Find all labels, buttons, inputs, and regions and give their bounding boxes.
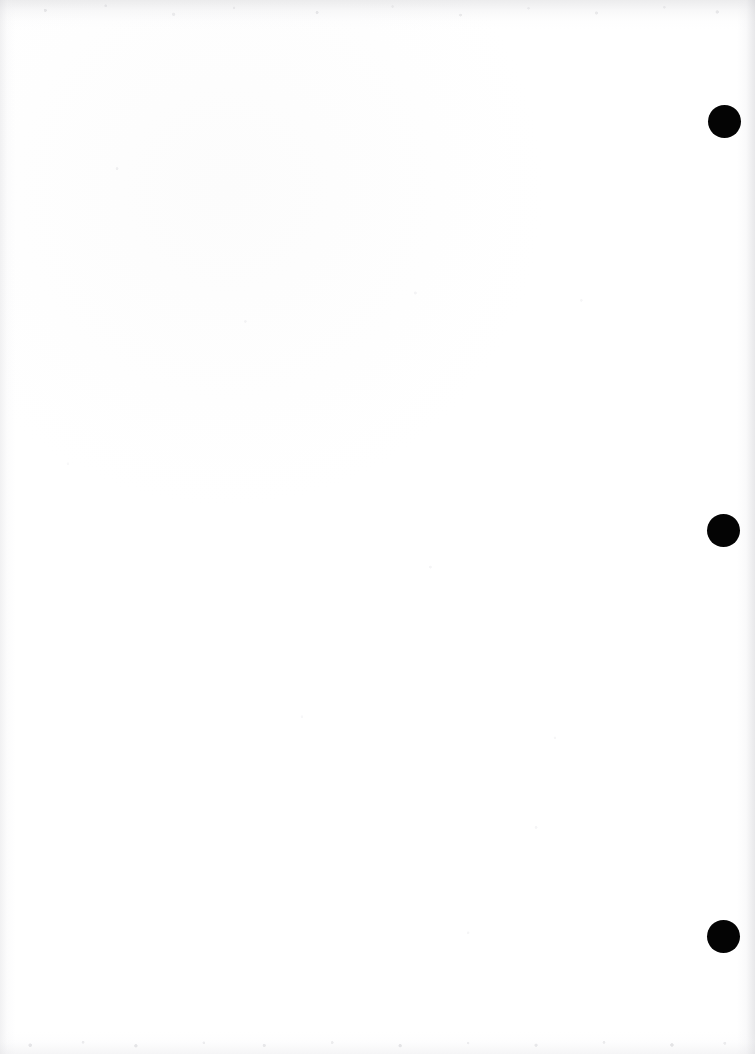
bottom-edge-speckle xyxy=(0,1038,755,1050)
left-edge-shadow xyxy=(0,0,16,1054)
registration-dot-bottom xyxy=(707,920,740,953)
registration-dot-middle xyxy=(707,514,740,547)
scanned-page xyxy=(0,0,755,1054)
top-edge-speckle xyxy=(0,0,755,26)
scan-dust-specks xyxy=(0,0,755,1054)
registration-dot-top xyxy=(708,105,741,138)
right-edge-shadow xyxy=(737,0,755,1054)
